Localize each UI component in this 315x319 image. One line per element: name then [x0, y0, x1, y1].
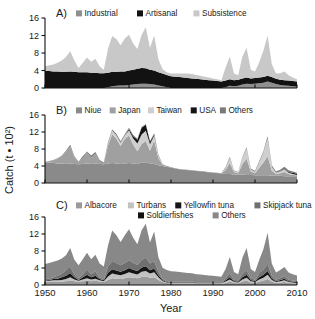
- y-tick-label: 0: [34, 178, 39, 188]
- legend-label-yellowfin-tuna: Yellowfin tuna: [184, 201, 235, 210]
- legend-label-taiwan: Taiwan: [156, 106, 182, 115]
- panel-b: 0481216B)NiueJapanTaiwanUSAOthers: [0, 100, 315, 195]
- x-axis-label: Year: [160, 302, 183, 314]
- panel-letter-a: A): [56, 7, 67, 19]
- legend-label-industrial: Industrial: [85, 9, 118, 18]
- y-tick-label: 4: [34, 66, 39, 76]
- panel-a: 0481216A)IndustrialArtisanalSubsistence: [0, 0, 315, 100]
- x-tick-label: 2000: [244, 287, 265, 298]
- y-tick-label: 16: [29, 13, 39, 23]
- legend-swatch-niue: [76, 107, 82, 113]
- legend-label-others: Others: [228, 106, 253, 115]
- panel-c-plot: 04812161950196019701980199020002010C)Alb…: [0, 195, 315, 319]
- legend-label-artisanal: Artisanal: [146, 9, 178, 18]
- legend-label-usa: USA: [199, 106, 216, 115]
- legend-swatch-subsistence: [193, 10, 199, 16]
- panel-b-plot: 0481216B)NiueJapanTaiwanUSAOthers: [0, 100, 315, 195]
- legend-swatch-usa: [191, 107, 197, 113]
- legend-swatch-albacore: [76, 202, 82, 208]
- panel-letter-b: B): [56, 104, 67, 116]
- legend-swatch-yellowfin-tuna: [175, 202, 181, 208]
- y-tick-label: 8: [34, 246, 39, 256]
- legend-swatch-others: [220, 107, 226, 113]
- x-tick-label: 1980: [160, 287, 181, 298]
- y-tick-label: 0: [34, 83, 39, 93]
- y-tick-label: 4: [34, 263, 39, 273]
- legend-label-soldierfishes: Soldierfishes: [147, 211, 194, 220]
- legend-label-japan: Japan: [118, 106, 141, 115]
- y-tick-label: 16: [29, 212, 39, 222]
- y-tick-label: 8: [34, 48, 39, 58]
- legend-label-subsistence: Subsistence: [202, 9, 247, 18]
- y-tick-label: 16: [29, 110, 39, 120]
- legend-swatch-japan: [110, 107, 116, 113]
- legend-swatch-industrial: [76, 10, 82, 16]
- panel-c: 04812161950196019701980199020002010C)Alb…: [0, 195, 315, 319]
- x-tick-label: 1960: [76, 287, 97, 298]
- y-tick-label: 12: [29, 229, 39, 239]
- legend-label-skipjack-tuna: Skipjack tuna: [263, 201, 312, 210]
- area-series-others: [45, 224, 297, 282]
- y-tick-label: 4: [34, 161, 39, 171]
- legend-label-albacore: Albacore: [85, 201, 118, 210]
- legend-swatch-others: [213, 212, 219, 218]
- y-tick-label: 8: [34, 144, 39, 154]
- legend-swatch-taiwan: [148, 107, 154, 113]
- x-tick-label: 1990: [202, 287, 223, 298]
- legend-label-others: Others: [221, 211, 246, 220]
- panel-a-plot: 0481216A)IndustrialArtisanalSubsistence: [0, 0, 315, 100]
- legend-swatch-artisanal: [137, 10, 143, 16]
- x-tick-label: 2010: [286, 287, 307, 298]
- legend-swatch-turbans: [128, 202, 134, 208]
- x-tick-label: 1970: [118, 287, 139, 298]
- figure-container: Catch (t • 10²) 0481216A)IndustrialArtis…: [0, 0, 315, 319]
- legend-swatch-soldierfishes: [138, 212, 144, 218]
- x-tick-label: 1950: [34, 287, 55, 298]
- legend-label-turbans: Turbans: [136, 201, 166, 210]
- legend-label-niue: Niue: [85, 106, 102, 115]
- legend-swatch-skipjack-tuna: [254, 202, 260, 208]
- y-tick-label: 12: [29, 31, 39, 41]
- panel-letter-c: C): [56, 199, 68, 211]
- y-tick-label: 12: [29, 127, 39, 137]
